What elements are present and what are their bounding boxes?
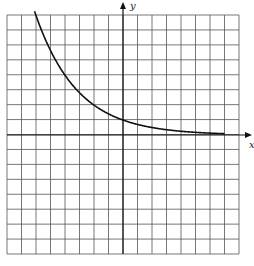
y-axis-label: y	[129, 0, 136, 11]
coordinate-grid-chart: x y	[0, 0, 254, 266]
y-axis-arrow-icon	[120, 2, 126, 9]
x-axis-label: x	[249, 139, 254, 150]
x-axis-arrow-icon	[245, 132, 252, 138]
